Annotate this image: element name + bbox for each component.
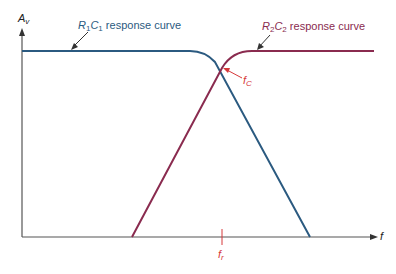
- fc-label: fC: [243, 74, 252, 88]
- x-axis-label: f: [380, 230, 383, 242]
- y-axis-arrow-icon: [19, 28, 25, 36]
- fc-arrow-head-icon: [223, 68, 230, 73]
- fr-label: fr: [218, 248, 224, 262]
- r1c1-response-curve: [22, 51, 310, 237]
- r2c2-response-curve: [132, 51, 374, 237]
- x-axis-arrow-icon: [370, 234, 378, 240]
- r1c1-curve-label: R1C1 response curve: [78, 19, 181, 33]
- response-curve-diagram: [0, 0, 396, 274]
- fc-arrow: [227, 70, 242, 78]
- r2c2-curve-label: R2C2 response curve: [262, 20, 365, 34]
- r2c2-arrow-head-icon: [257, 43, 264, 50]
- y-axis-label: Av: [18, 12, 29, 26]
- r1c1-arrow-head-icon: [71, 43, 78, 50]
